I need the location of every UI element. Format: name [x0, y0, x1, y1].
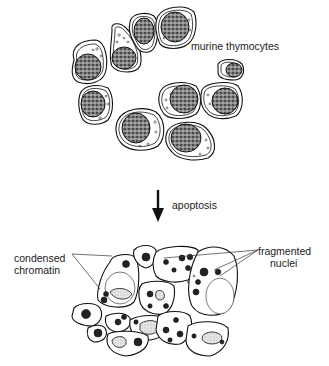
apoptosis-arrow: [152, 190, 164, 222]
thymocyte-cell: [159, 83, 201, 119]
healthy-thymocytes-group: [72, 7, 243, 160]
thymocyte-cell: [166, 122, 215, 160]
murine-thymocytes-label: murine thymocytes: [191, 40, 279, 52]
leader-line-condensed-chromatin: [72, 254, 112, 256]
apoptosis-label: apoptosis: [172, 199, 217, 211]
fragmented-nuclei-label-line1: fragmented: [258, 245, 311, 257]
thymocyte-cell: [218, 60, 244, 81]
apoptosis-diagram: murine thymocytes apoptosis condensed ch…: [0, 0, 329, 366]
thymocyte-cell: [79, 86, 113, 125]
condensed-chromatin-label-line2: chromatin: [14, 264, 60, 276]
thymocyte-cell: [156, 7, 196, 48]
leader-line-condensed-chromatin: [72, 254, 100, 289]
thymocyte-cell: [72, 40, 106, 84]
fragmented-nuclei-label-line2: nuclei: [270, 257, 297, 269]
apoptotic-cells-group: [72, 246, 258, 357]
condensed-chromatin-label-line1: condensed: [14, 252, 65, 264]
thymocyte-cell: [201, 83, 242, 119]
diagram-canvas: [0, 0, 329, 366]
thymocyte-cell: [116, 109, 164, 151]
